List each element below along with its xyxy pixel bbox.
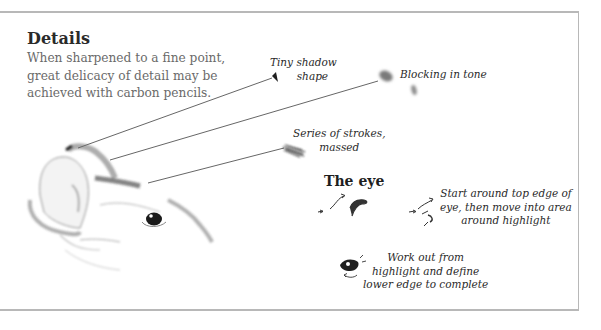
eye-heading: The eye (324, 173, 384, 189)
ear-sketch-icon (30, 146, 140, 250)
annotation-blocking-tone: Blocking in tone (400, 68, 487, 82)
eye-step-start-note: Start around top edge of eye, then move … (440, 187, 572, 228)
eye-step1-icon (318, 194, 367, 216)
eye-step2-icon (409, 198, 433, 226)
eye-step-work-out-note: Work out from highlight and define lower… (363, 251, 488, 292)
annotation-series-strokes: Series of strokes, massed (293, 127, 386, 154)
illustration (0, 0, 601, 330)
animal-eye-icon (142, 213, 166, 227)
annotation-tiny-shadow: Tiny shadow shape (270, 56, 337, 83)
head-sketch-icon (65, 200, 212, 270)
